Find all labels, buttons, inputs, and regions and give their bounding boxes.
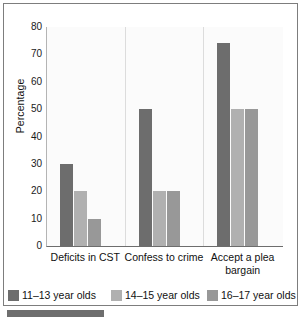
bar (88, 219, 101, 246)
legend-item[interactable]: 16–17 year olds (207, 287, 296, 303)
bar (139, 109, 152, 246)
chart-figure: Percentage 01020304050607080 Deficits in… (0, 0, 305, 319)
x-axis-category-label: Deficits in CST (40, 251, 131, 264)
y-axis-tick-label: 30 (2, 159, 42, 169)
bottom-accent-bar (7, 310, 104, 317)
group-separator (203, 27, 204, 246)
legend-swatch-icon (207, 290, 218, 301)
legend-item[interactable]: 14–15 year olds (111, 287, 200, 303)
y-axis-tick-label: 80 (2, 22, 42, 32)
legend-label: 11–13 year olds (22, 289, 96, 301)
y-axis-tick-label: 40 (2, 132, 42, 142)
x-axis-category-label: Accept a plea bargain (197, 251, 288, 276)
bar (153, 191, 166, 246)
y-axis-tick-label: 60 (2, 77, 42, 87)
x-axis-category-label: Confess to crime (119, 251, 210, 264)
y-axis-tick-label: 20 (2, 186, 42, 196)
bar (74, 191, 87, 246)
legend-label: 14–15 year olds (125, 289, 200, 301)
bar (245, 109, 258, 246)
legend-swatch-icon (111, 290, 122, 301)
y-axis-tick-label: 0 (2, 241, 42, 251)
y-axis-tick-label: 70 (2, 49, 42, 59)
bar (231, 109, 244, 246)
bar (167, 191, 180, 246)
legend-item[interactable]: 11–13 year olds (8, 287, 96, 303)
chart-legend: 11–13 year olds14–15 year olds16–17 year… (8, 287, 298, 303)
group-separator (125, 27, 126, 246)
y-axis-tick-label: 50 (2, 104, 42, 114)
y-axis-tick-label: 10 (2, 214, 42, 224)
bar (217, 43, 230, 246)
bar (60, 164, 73, 246)
legend-swatch-icon (8, 290, 19, 301)
legend-label: 16–17 year olds (221, 289, 296, 301)
